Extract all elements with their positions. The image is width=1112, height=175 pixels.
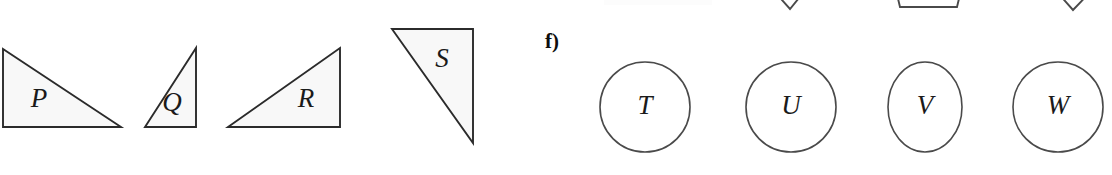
circle-t-label: T [637, 90, 654, 120]
triangle-r-outline [228, 48, 340, 127]
triangle-r-label: R [297, 83, 315, 113]
part-label-f: f) [545, 31, 559, 52]
chevron-bottom-mid-icon [766, 0, 812, 9]
geometry-shapes-svg: P Q R S T U V [0, 0, 1112, 175]
shape-triangle-r: R [228, 48, 340, 127]
circle-u-label: U [781, 90, 802, 120]
circle-w-label: W [1047, 90, 1072, 120]
faint-band [604, 0, 712, 5]
shape-circle-t: T [600, 62, 690, 152]
shape-triangle-s: S [392, 29, 473, 143]
shape-circle-v: V [888, 62, 962, 152]
triangle-p-outline [3, 49, 121, 127]
trapezoid-bottom-icon [894, 0, 963, 7]
chevron-bottom-right-icon [1050, 0, 1098, 10]
triangle-s-label: S [435, 43, 449, 73]
shape-circle-u: U [746, 62, 836, 152]
figure-canvas: P Q R S T U V [0, 0, 1112, 175]
triangle-p-label: P [30, 83, 48, 113]
triangle-s-outline [392, 29, 473, 143]
triangle-q-label: Q [162, 87, 182, 117]
clipped-shapes-group [604, 0, 1098, 10]
shape-triangle-p: P [3, 49, 121, 127]
shape-triangle-q: Q [145, 48, 196, 127]
shape-circle-w: W [1013, 62, 1103, 152]
